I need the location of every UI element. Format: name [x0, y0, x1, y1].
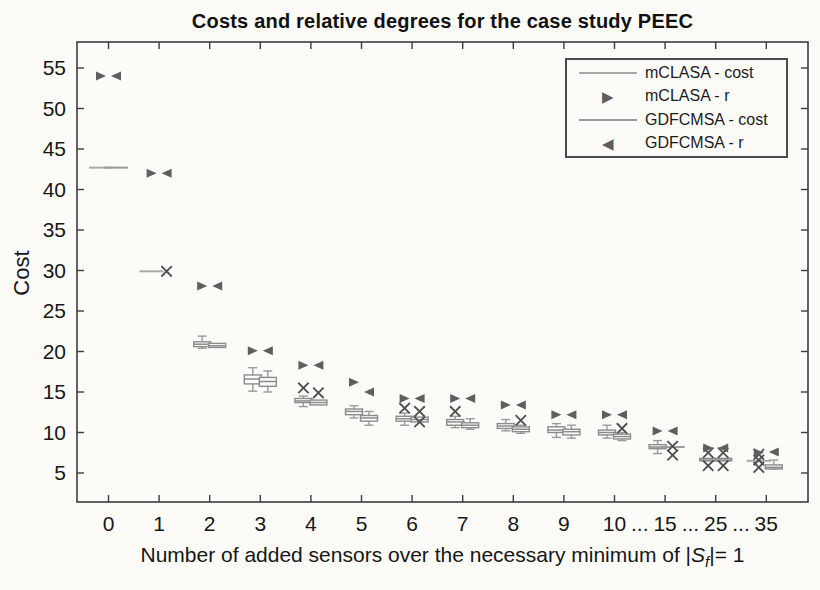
outlier-x-marker-mCLASA-cat-4	[298, 383, 308, 393]
outlier-x-marker-mCLASA-cat-35	[754, 462, 764, 472]
y-tick-label: 30	[43, 259, 66, 282]
x-tick-label: 9	[558, 512, 570, 535]
y-tick-label: 35	[43, 218, 66, 241]
chart-title: Costs and relative degrees for the case …	[77, 10, 808, 33]
boxplot-GDFCMSA-cat-8	[512, 425, 529, 433]
y-tick-label: 40	[43, 178, 66, 201]
legend-label: GDFCMSA - r	[645, 134, 744, 152]
y-tick-label: 25	[43, 299, 66, 322]
outlier-x-marker-GDFCMSA-cat-8	[516, 415, 526, 425]
r-marker-mCLASA-cat-2	[197, 281, 207, 290]
r-marker-GDFCMSA-cat-9	[566, 410, 576, 419]
x-axis-label: Number of added sensors over the necessa…	[77, 543, 808, 570]
boxplot-GDFCMSA-cat-4	[310, 400, 327, 405]
x-tick-label: 6	[406, 512, 418, 535]
legend-label: GDFCMSA - cost	[645, 111, 768, 129]
legend-item-gdfcmsa-r: ◀ GDFCMSA - r	[567, 132, 786, 154]
x-tick-label: 15	[653, 512, 676, 535]
x-tick-label: 25	[704, 512, 727, 535]
r-marker-mCLASA-cat-10	[602, 410, 612, 419]
x-tick-label: 7	[457, 512, 469, 535]
outlier-x-marker-mCLASA-cat-25	[703, 461, 713, 471]
r-marker-mCLASA-cat-3	[248, 346, 258, 355]
boxplot-GDFCMSA-cat-3	[259, 371, 276, 392]
outlier-x-marker-GDFCMSA-cat-6	[414, 406, 424, 416]
r-marker-mCLASA-cat-5	[349, 378, 359, 387]
r-marker-mCLASA-cat-1	[147, 169, 157, 178]
x-axis-label-var: S	[691, 543, 705, 566]
x-tick-label: 2	[204, 512, 216, 535]
legend-item-mclasa-cost: mCLASA - cost	[567, 62, 786, 84]
y-tick-label: 45	[43, 137, 66, 160]
r-marker-GDFCMSA-cat-15	[668, 426, 678, 435]
y-tick-label: 20	[43, 340, 66, 363]
legend-label: mCLASA - cost	[645, 64, 753, 82]
y-tick-label: 10	[43, 421, 66, 444]
legend-item-gdfcmsa-cost: GDFCMSA - cost	[567, 109, 786, 131]
y-tick-label: 5	[54, 461, 66, 484]
legend: mCLASA - cost ▶ mCLASA - r GDFCMSA - cos…	[565, 58, 788, 158]
triangle-right-icon: ▶	[579, 89, 637, 104]
mclasa-cost-line-sample	[579, 72, 637, 74]
boxplot-GDFCMSA-cat-10	[614, 433, 631, 441]
x-tick-label: 5	[356, 512, 368, 535]
r-marker-mCLASA-cat-15	[653, 426, 663, 435]
r-marker-GDFCMSA-cat-3	[263, 346, 273, 355]
x-tick-label: 1	[153, 512, 165, 535]
x-tick-label: 10	[603, 512, 626, 535]
r-marker-mCLASA-cat-0	[96, 72, 106, 81]
x-tick-label: 4	[305, 512, 317, 535]
outlier-x-marker-mCLASA-cat-6	[399, 403, 409, 413]
y-tick-label: 55	[43, 56, 66, 79]
outlier-x-marker-GDFCMSA-cat-25	[718, 461, 728, 471]
r-marker-mCLASA-cat-4	[298, 361, 308, 370]
r-marker-mCLASA-cat-7	[450, 394, 460, 403]
r-marker-GDFCMSA-cat-35	[769, 447, 779, 456]
r-marker-mCLASA-cat-8	[501, 400, 511, 409]
outlier-x-marker-GDFCMSA-cat-15	[667, 450, 677, 460]
gdfcmsa-cost-line-sample	[579, 119, 637, 121]
legend-item-mclasa-r: ▶ mCLASA - r	[567, 85, 786, 107]
r-marker-mCLASA-cat-25	[703, 443, 713, 452]
r-marker-GDFCMSA-cat-6	[415, 394, 425, 403]
outlier-x-marker-GDFCMSA-cat-4	[313, 388, 323, 398]
x-tick-label: 0	[103, 512, 115, 535]
r-marker-mCLASA-cat-6	[400, 394, 410, 403]
boxplot-GDFCMSA-cat-25	[715, 458, 732, 460]
x-axis-ellipsis: ...	[631, 512, 649, 535]
boxplot-GDFCMSA-cat-2	[209, 343, 226, 347]
legend-label: mCLASA - r	[645, 87, 729, 105]
x-axis-label-suffix: |= 1	[709, 543, 744, 566]
outlier-x-marker-mCLASA-cat-7	[450, 406, 460, 416]
r-marker-mCLASA-cat-9	[551, 410, 561, 419]
x-axis-label-prefix: Number of added sensors over the necessa…	[141, 543, 692, 566]
y-tick-label: 50	[43, 97, 66, 120]
triangle-left-icon: ◀	[579, 136, 637, 151]
r-marker-GDFCMSA-cat-7	[465, 394, 475, 403]
r-marker-GDFCMSA-cat-4	[313, 361, 323, 370]
x-tick-label: 8	[507, 512, 519, 535]
y-tick-label: 15	[43, 380, 66, 403]
r-marker-GDFCMSA-cat-8	[516, 400, 526, 409]
r-marker-GDFCMSA-cat-1	[162, 169, 172, 178]
figure-costs-peec: 510152025303540455055012345678910152535.…	[0, 0, 820, 590]
x-tick-label: 35	[755, 512, 778, 535]
x-tick-label: 3	[254, 512, 266, 535]
r-marker-GDFCMSA-cat-10	[617, 410, 627, 419]
r-marker-GDFCMSA-cat-2	[212, 281, 222, 290]
r-marker-GDFCMSA-cat-5	[364, 388, 374, 397]
y-axis-label: Cost	[9, 223, 35, 323]
r-marker-GDFCMSA-cat-0	[111, 72, 121, 81]
r-marker-GDFCMSA-cat-25	[718, 443, 728, 452]
x-axis-ellipsis: ...	[732, 512, 750, 535]
x-axis-ellipsis: ...	[682, 512, 700, 535]
